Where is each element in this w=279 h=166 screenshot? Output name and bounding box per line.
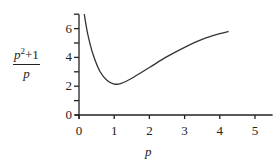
y-tick-label: 4 — [60, 50, 72, 63]
y-tick-label: 6 — [60, 22, 72, 35]
data-line — [84, 14, 228, 84]
x-tick-label: 3 — [178, 124, 192, 137]
plot-area — [0, 0, 279, 166]
y-tick-label: 0 — [60, 108, 72, 121]
x-tick-label: 1 — [107, 124, 121, 137]
x-axis-label: p — [145, 145, 152, 158]
y-axis-label: p2+1 p — [13, 46, 40, 82]
x-tick-label: 2 — [142, 124, 156, 137]
x-tick-label: 4 — [213, 124, 227, 137]
y-tick-label: 2 — [60, 79, 72, 92]
x-tick-label: 0 — [72, 124, 86, 137]
x-tick-label: 5 — [248, 124, 262, 137]
